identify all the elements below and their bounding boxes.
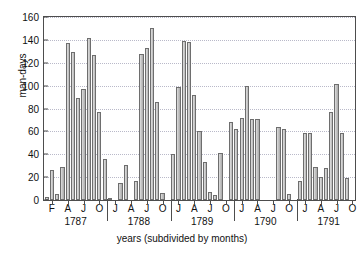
y-tick-mark [44,154,48,155]
year-separator [171,199,172,221]
bar [134,181,138,200]
bar [218,153,222,200]
x-tick-mark [99,201,100,205]
x-tick-mark [52,201,53,205]
y-tick-label: 140 [5,34,44,45]
bar [245,86,249,200]
bar [118,183,122,200]
bar [171,154,175,200]
x-tick-mark [163,201,164,205]
x-tick-mark [289,201,290,205]
bar [87,38,91,200]
y-tick-mark [44,17,48,18]
bar [203,162,207,200]
year-separator [107,199,108,221]
bar [282,129,286,200]
bar [60,167,64,200]
x-tick-mark [352,201,353,205]
y-tick-label: 100 [5,80,44,91]
bar [71,52,75,200]
y-tick-label: 60 [5,126,44,137]
x-tick-mark [273,201,274,205]
chart-figure: man-days 020406080100120140160 FAJOJAJOJ… [0,0,364,265]
bar [187,42,191,200]
bar [276,127,280,200]
y-tick-label: 80 [5,103,44,114]
bar [55,194,59,200]
bar [308,133,312,200]
bar [108,198,112,200]
bar [208,192,212,200]
y-tick-mark [44,85,48,86]
x-tick-mark [131,201,132,205]
x-tick-mark [305,201,306,205]
y-tick-mark [44,131,48,132]
bar [255,119,259,200]
bar [345,178,349,200]
bar [182,41,186,200]
y-tick-mark [44,108,48,109]
x-tick-mark [178,201,179,205]
y-tick-mark [44,177,48,178]
x-tick-mark [68,201,69,205]
bar [324,168,328,200]
plot-area: 020406080100120140160 [43,16,356,201]
y-tick-label: 120 [5,57,44,68]
bar [155,102,159,200]
x-tick-mark [242,201,243,205]
x-tick-mark [257,201,258,205]
x-tick-mark [84,201,85,205]
bar [145,48,149,200]
x-tick-mark [210,201,211,205]
year-separator [297,199,298,221]
bar [234,129,238,200]
bar [97,112,101,200]
y-tick-mark [44,200,48,201]
bar [250,119,254,200]
bar [213,195,217,200]
bar [103,159,107,200]
y-tick-label: 20 [5,172,44,183]
x-tick-mark [226,201,227,205]
bar [197,131,201,200]
bar [76,98,80,200]
y-tick-label: 160 [5,12,44,23]
bar [160,193,164,200]
bar [150,28,154,200]
bar [298,181,302,200]
bar-series [44,17,355,200]
bar [124,165,128,200]
bar [66,43,70,200]
x-axis-year-label: 1790 [254,216,276,227]
y-tick-label: 0 [5,195,44,206]
x-axis-year-label: 1789 [191,216,213,227]
bar [92,55,96,200]
x-tick-mark [115,201,116,205]
y-tick-mark [44,62,48,63]
x-tick-mark [321,201,322,205]
year-separator [234,199,235,221]
bar [192,95,196,200]
x-tick-mark [194,201,195,205]
y-tick-mark [44,39,48,40]
bar [303,133,307,200]
bar [340,133,344,200]
bar [240,118,244,200]
x-axis-year-label: 1788 [128,216,150,227]
y-tick-label: 40 [5,149,44,160]
bar [50,170,54,200]
x-tick-mark [337,201,338,205]
x-axis-year-label: 1787 [65,216,87,227]
bar [229,122,233,200]
bar [176,87,180,200]
bar [139,54,143,200]
x-tick-mark [147,201,148,205]
bar [329,112,333,200]
bar [319,177,323,200]
bar [334,84,338,200]
bar [287,194,291,200]
x-axis-year-label: 1791 [318,216,340,227]
bar [81,89,85,200]
bar [313,167,317,200]
x-axis-title: years (subdivided by months) [0,233,364,244]
